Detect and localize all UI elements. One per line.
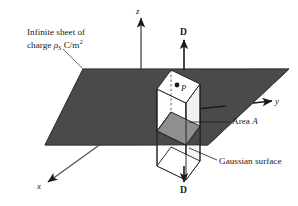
area-symbol: A [252,116,258,126]
gaussian-surface-label: Gaussian surface [219,156,282,167]
axis-label-y: y [275,96,279,107]
sheet-label-line2: charge ρS C/m2 [27,38,85,52]
point-P-label: P [181,83,186,93]
sheet-units: C/m [61,40,79,50]
area-label: Area A [232,116,258,127]
flux-label-top: D [180,26,187,37]
axis-label-x: x [37,181,41,192]
sheet-label: Infinite sheet of charge ρS C/m2 [27,27,85,52]
leader-line-sheet [63,49,84,70]
figure-root: Infinite sheet of charge ρS C/m2 Area A … [0,0,298,206]
point-P-marker [175,83,180,88]
sheet-units-exponent: 2 [79,38,82,45]
flux-label-bottom: D [180,184,187,195]
area-label-word: Area [232,116,252,126]
sheet-label-line1: Infinite sheet of [27,27,85,37]
sheet-label-charge-word: charge [27,40,54,50]
axis-label-z: z [136,6,140,17]
